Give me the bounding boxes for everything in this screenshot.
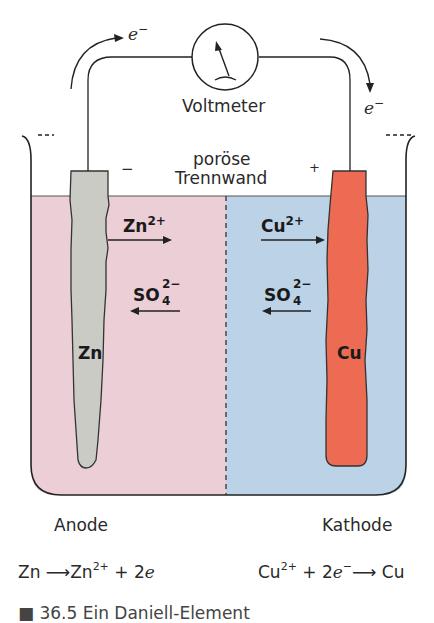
figure-caption: ■ 36.5 Ein Daniell-Element [18,603,250,623]
wire-right [259,57,350,171]
copper-ion-label: Cu2+ [261,214,304,236]
membrane-label-line2: Trennwand [175,168,267,188]
zinc-ion-label: Zn2+ [123,214,166,236]
cathode-plus-sign: + [309,160,320,175]
anode-label: Anode [54,515,108,535]
copper-electrode [326,171,368,466]
cathode-equation: Cu2+ + 2e−⟶ Cu [258,560,404,582]
voltmeter-label: Voltmeter [182,96,265,116]
sulfate-ion-label-right: SO2−4 [264,285,291,305]
anode-equation: Zn ⟶Zn2+ + 2e [18,560,155,582]
electron-label-left: e− [128,22,148,44]
cathode-label: Kathode [322,515,392,535]
wire-left [88,57,192,171]
anode-minus-sign: − [121,160,134,178]
copper-electrode-label: Cu [337,343,362,363]
sulfate-ion-label-left: SO2−4 [133,285,160,305]
membrane-label-line1: poröse [193,149,251,169]
zinc-electrode-label: Zn [78,343,102,363]
electron-label-right: e− [364,96,384,118]
electron-flow-right-arrow [320,39,370,84]
anode-solution [31,196,226,495]
voltmeter-dial [192,24,258,90]
